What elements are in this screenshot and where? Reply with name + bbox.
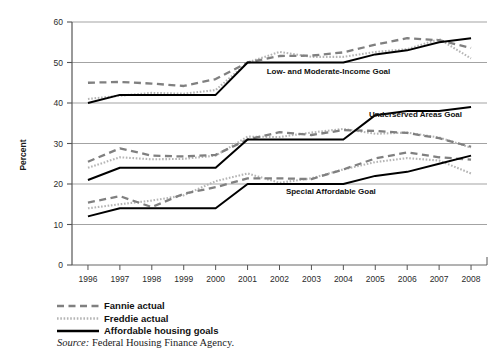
x-tick-label-2001: 2001 (238, 274, 257, 284)
x-tick-label-1996: 1996 (79, 274, 98, 284)
chart-legend: Fannie actualFreddie actualAffordable ho… (57, 300, 219, 336)
legend-label-freddie-actual: Freddie actual (104, 313, 168, 324)
y-tick-label-40: 40 (54, 98, 64, 108)
data-series-lines (88, 38, 471, 216)
gridlines (72, 22, 487, 265)
y-axis-tick-labels: 0102030405060 (54, 17, 72, 270)
y-tick-label-60: 60 (54, 17, 64, 27)
x-tick-label-2000: 2000 (206, 274, 225, 284)
legend-label-affordable-housing-goals: Affordable housing goals (104, 325, 219, 336)
annotation-underserved-areas-goal: Underserved Areas Goal (369, 110, 462, 119)
y-tick-label-50: 50 (54, 58, 64, 68)
line-fannie-actual (88, 152, 471, 207)
x-tick-label-2002: 2002 (270, 274, 289, 284)
chart-figure: 0102030405060 19961997199819992000200120… (0, 0, 500, 360)
x-tick-label-2007: 2007 (430, 274, 449, 284)
source-prefix: Source: (57, 337, 89, 348)
y-tick-label-20: 20 (54, 179, 64, 189)
x-tick-label-1997: 1997 (110, 274, 129, 284)
x-axis-tick-labels: 1996199719981999200020012002200320042005… (79, 265, 481, 284)
line-affordable-housing-goals (88, 156, 471, 217)
y-tick-label-10: 10 (54, 220, 64, 230)
x-tick-label-2003: 2003 (302, 274, 321, 284)
source-text: Federal Housing Finance Agency. (92, 337, 234, 348)
y-axis-title: Percent (18, 139, 28, 170)
annotation-special-affordable-goal: Special Affordable Goal (286, 187, 376, 196)
source-note: Source: Federal Housing Finance Agency. (57, 337, 234, 348)
x-tick-label-2008: 2008 (462, 274, 481, 284)
x-tick-label-1999: 1999 (174, 274, 193, 284)
legend-label-fannie-actual: Fannie actual (104, 300, 165, 311)
affordable-housing-goals-line-chart: 0102030405060 19961997199819992000200120… (0, 0, 500, 360)
line-fannie-actual (88, 130, 471, 162)
x-tick-label-2006: 2006 (398, 274, 417, 284)
x-tick-label-2005: 2005 (366, 274, 385, 284)
y-tick-label-0: 0 (58, 260, 63, 270)
x-tick-label-2004: 2004 (334, 274, 353, 284)
y-tick-label-30: 30 (54, 139, 64, 149)
y-axis-title-text: Percent (18, 139, 28, 170)
x-tick-label-1998: 1998 (142, 274, 161, 284)
annotation-low-and-moderate-income-goal: Low- and Moderate-Income Goal (267, 67, 391, 76)
